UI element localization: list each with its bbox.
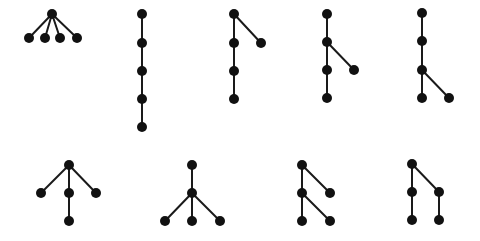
tree-node — [322, 93, 332, 103]
tree-node — [64, 216, 74, 226]
tree-edge — [192, 193, 220, 221]
tree-root-node — [322, 9, 332, 19]
tree-edge — [302, 165, 330, 193]
tree-node — [137, 122, 147, 132]
tree-node — [229, 66, 239, 76]
tree-node — [36, 188, 46, 198]
tree-node — [325, 188, 335, 198]
tree-edge — [412, 164, 439, 192]
tree-node — [40, 33, 50, 43]
tree-edge — [234, 14, 261, 43]
tree-node — [215, 216, 225, 226]
tree-node — [325, 216, 335, 226]
tree-node — [187, 188, 197, 198]
tree-node — [229, 94, 239, 104]
tree-node — [72, 33, 82, 43]
tree-node — [55, 33, 65, 43]
tree-root-node — [229, 9, 239, 19]
tree-node — [256, 38, 266, 48]
tree-edge — [165, 193, 192, 221]
tree-edge — [327, 42, 354, 70]
tree-8 — [297, 160, 335, 226]
tree-2 — [137, 9, 147, 132]
tree-node — [434, 215, 444, 225]
tree-1 — [24, 9, 82, 43]
tree-node — [417, 36, 427, 46]
tree-node — [24, 33, 34, 43]
tree-node — [297, 216, 307, 226]
tree-root-node — [187, 160, 197, 170]
tree-3 — [229, 9, 266, 104]
tree-node — [297, 188, 307, 198]
tree-node — [434, 187, 444, 197]
tree-node — [444, 93, 454, 103]
tree-node — [322, 37, 332, 47]
tree-node — [417, 93, 427, 103]
tree-root-node — [137, 9, 147, 19]
tree-root-node — [297, 160, 307, 170]
tree-node — [407, 215, 417, 225]
tree-node — [137, 38, 147, 48]
tree-edge — [302, 193, 330, 221]
tree-root-node — [47, 9, 57, 19]
tree-7 — [160, 160, 225, 226]
tree-root-node — [64, 160, 74, 170]
tree-edge — [422, 70, 449, 98]
tree-diagram-canvas — [0, 0, 480, 241]
tree-5 — [417, 8, 454, 103]
tree-node — [407, 187, 417, 197]
tree-node — [64, 188, 74, 198]
tree-4 — [322, 9, 359, 103]
tree-node — [137, 66, 147, 76]
tree-node — [229, 38, 239, 48]
tree-node — [187, 216, 197, 226]
tree-node — [137, 94, 147, 104]
tree-edge — [69, 165, 96, 193]
tree-root-node — [407, 159, 417, 169]
tree-6 — [36, 160, 101, 226]
tree-9 — [407, 159, 444, 225]
tree-node — [417, 65, 427, 75]
tree-node — [349, 65, 359, 75]
tree-edge — [41, 165, 69, 193]
tree-node — [322, 65, 332, 75]
tree-node — [91, 188, 101, 198]
tree-root-node — [417, 8, 427, 18]
tree-node — [160, 216, 170, 226]
